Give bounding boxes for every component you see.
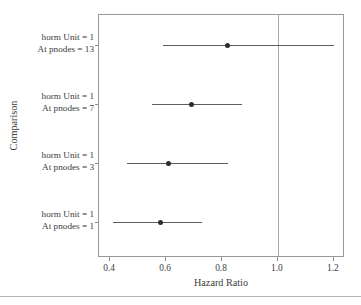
y-axis-label: horm Unit = 1At pnodes = 3 <box>0 150 98 173</box>
bottom-divider <box>0 296 361 297</box>
confidence-interval-line <box>163 45 334 46</box>
estimate-point-marker <box>166 161 171 166</box>
reference-line-1 <box>278 15 279 256</box>
y-axis-label: horm Unit = 1At pnodes = 1 <box>0 209 98 232</box>
plot-area <box>98 14 344 257</box>
y-axis-label-line1: horm Unit = 1 <box>0 209 94 221</box>
x-axis-tick-label: 1.0 <box>257 262 297 274</box>
y-axis-label-line2: At pnodes = 7 <box>0 103 94 115</box>
forest-plot-figure: Comparison horm Unit = 1At pnodes = 13ho… <box>0 0 361 305</box>
y-axis-label-line2: At pnodes = 3 <box>0 162 94 174</box>
y-axis-label-line2: At pnodes = 13 <box>0 44 94 56</box>
confidence-interval-line <box>127 163 228 164</box>
x-axis-tick-label: 0.6 <box>145 262 185 274</box>
y-axis-label-line1: horm Unit = 1 <box>0 150 94 162</box>
x-axis-title: Hazard Ratio <box>98 277 344 288</box>
x-axis-tick <box>109 257 110 261</box>
estimate-point-marker <box>189 102 194 107</box>
estimate-point-marker <box>225 43 230 48</box>
x-axis-tick-label: 0.4 <box>89 262 129 274</box>
y-axis-label-line1: horm Unit = 1 <box>0 91 94 103</box>
x-axis-tick <box>277 257 278 261</box>
estimate-point-marker <box>158 220 163 225</box>
x-axis-tick-label: 0.8 <box>201 262 241 274</box>
y-axis-label: horm Unit = 1At pnodes = 13 <box>0 32 98 55</box>
x-axis-tick <box>165 257 166 261</box>
x-axis-tick <box>221 257 222 261</box>
y-axis-label: horm Unit = 1At pnodes = 7 <box>0 91 98 114</box>
x-axis-tick-label: 1.2 <box>313 262 353 274</box>
y-axis-label-line1: horm Unit = 1 <box>0 32 94 44</box>
x-axis-tick <box>333 257 334 261</box>
y-axis-label-line2: At pnodes = 1 <box>0 221 94 233</box>
confidence-interval-line <box>152 104 241 105</box>
